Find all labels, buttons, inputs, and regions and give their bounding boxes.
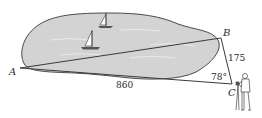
- lake-shape: [22, 13, 219, 79]
- label-angle-C: 78°: [211, 72, 227, 82]
- label-A: A: [8, 66, 16, 77]
- lake-survey-diagram: A B C 175 78° 860: [0, 0, 262, 118]
- surveyor-figure: [236, 74, 251, 111]
- label-side-AC: 860: [116, 80, 133, 90]
- label-C: C: [228, 87, 236, 98]
- label-side-BC: 175: [228, 53, 245, 63]
- label-B: B: [222, 27, 230, 38]
